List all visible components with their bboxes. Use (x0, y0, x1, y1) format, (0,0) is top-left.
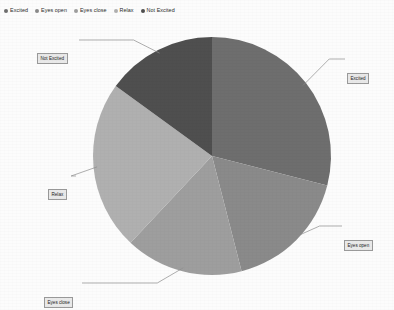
legend-item-label: Eyes open (41, 7, 67, 14)
legend-item-label: Relax (120, 7, 134, 14)
legend-dot-icon (114, 9, 118, 13)
callout-leader-line (82, 268, 183, 283)
legend-item-label: Eyes close (80, 7, 107, 14)
pie-slice-group (93, 37, 331, 275)
callout-leader-line (303, 59, 345, 85)
legend-item-excited[interactable]: Excited (4, 7, 28, 14)
legend-item-relax[interactable]: Relax (114, 7, 134, 14)
callout-label-relax[interactable]: Relax (48, 189, 67, 200)
legend-dot-icon (141, 9, 145, 13)
legend-dot-icon (74, 9, 78, 13)
callout-leader-line (71, 167, 97, 176)
pie-chart: Excited Eyes open Eyes close Relax Not E… (0, 18, 394, 310)
callout-label-excited[interactable]: Excited (347, 73, 369, 84)
legend-item-eyes-close[interactable]: Eyes close (74, 7, 107, 14)
legend-item-label: Not Excited (147, 7, 175, 14)
callout-label-not-excited[interactable]: Not Excited (37, 53, 68, 64)
page-root: Excited Eyes open Eyes close Relax Not E… (0, 0, 394, 310)
legend-dot-icon (35, 9, 39, 13)
legend-item-eyes-open[interactable]: Eyes open (35, 7, 67, 14)
chart-legend: Excited Eyes open Eyes close Relax Not E… (4, 5, 175, 16)
legend-dot-icon (4, 9, 8, 13)
callout-label-eyes-close[interactable]: Eyes close (44, 297, 73, 308)
callout-leader-line (79, 40, 160, 53)
legend-item-label: Excited (10, 7, 28, 14)
legend-item-not-excited[interactable]: Not Excited (141, 7, 175, 14)
callout-label-eyes-open[interactable]: Eyes open (344, 240, 373, 251)
